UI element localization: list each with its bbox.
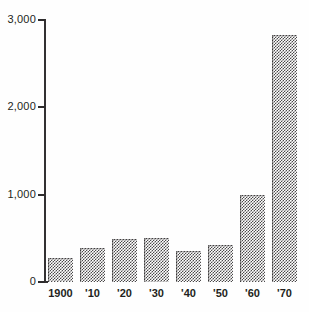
bar-10 [80, 248, 105, 282]
bar-chart-figure: 3,000 2,000 1,000 0 1900'10'20'30'40'50'… [0, 0, 309, 312]
y-axis-label-0: 0 [30, 275, 36, 287]
y-axis-label-1000-wrap: 1,000 [0, 188, 36, 202]
y-axis-label-1000: 1,000 [7, 188, 36, 200]
bar-30 [144, 238, 169, 282]
y-axis-label-2000: 2,000 [7, 100, 36, 112]
bar-20 [112, 239, 137, 282]
bar-40 [176, 251, 201, 282]
x-axis-label-70: '70 [265, 287, 305, 299]
y-axis-label-3000: 3,000 [7, 13, 36, 25]
bar-70 [272, 35, 297, 282]
y-axis-label-0-wrap: 0 [0, 275, 36, 289]
bars-layer [44, 19, 302, 282]
bar-50 [208, 245, 233, 282]
bar-60 [240, 195, 265, 282]
bar-1900 [48, 258, 73, 282]
y-axis-label-3000-wrap: 3,000 [0, 13, 36, 27]
x-axis-labels: 1900'10'20'30'40'50'60'70 [44, 287, 302, 305]
y-axis-label-2000-wrap: 2,000 [0, 100, 36, 114]
